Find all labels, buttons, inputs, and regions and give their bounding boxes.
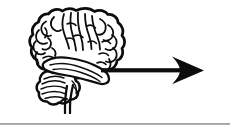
arrow-shaft bbox=[101, 68, 183, 72]
horizontal-divider bbox=[0, 123, 230, 125]
arrow-right-svg bbox=[98, 55, 210, 87]
arrow-right-icon bbox=[98, 55, 210, 87]
figure-root bbox=[0, 0, 230, 140]
